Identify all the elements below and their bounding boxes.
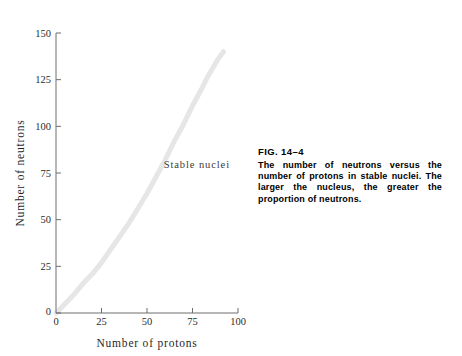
- x-axis-ticks: 0255075100: [53, 308, 246, 327]
- x-axis-tick-label: 100: [230, 316, 246, 327]
- x-axis-tick-label: 25: [96, 316, 107, 327]
- y-axis-ticks: 0255075100125150: [35, 28, 61, 318]
- figure-panel: 0255075100125150 0255075100 Number of pr…: [0, 0, 252, 356]
- x-axis-tick-label: 0: [53, 316, 58, 327]
- stable-nuclei-annotation: Stable nuclei: [164, 159, 230, 170]
- stable-nuclei-chart: 0255075100125150 0255075100 Number of pr…: [0, 0, 252, 356]
- chart-series-stable-nuclei: [56, 52, 223, 313]
- y-axis-title: Number of neutrons: [14, 119, 26, 226]
- x-axis-title: Number of protons: [96, 337, 197, 350]
- figure-caption: FIG. 14–4 The number of neutrons versus …: [258, 146, 442, 205]
- figure-caption-label: FIG. 14–4: [258, 146, 442, 157]
- x-axis-tick-label: 50: [142, 316, 153, 327]
- y-axis-tick-label: 75: [41, 168, 52, 179]
- y-axis-tick-label: 100: [35, 121, 51, 132]
- y-axis-tick-label: 50: [41, 214, 52, 225]
- y-axis-tick-label: 25: [41, 261, 52, 272]
- x-axis-tick-label: 75: [187, 316, 198, 327]
- y-axis-tick-label: 125: [35, 74, 51, 85]
- y-axis-tick-label: 0: [46, 306, 51, 317]
- y-axis-tick-label: 150: [35, 28, 51, 39]
- stable-nuclei-curve: [56, 52, 223, 313]
- figure-caption-text: The number of neutrons versus the number…: [258, 160, 442, 205]
